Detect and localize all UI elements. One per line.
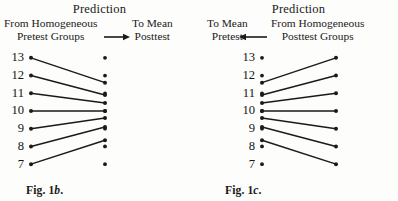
- regression-line: [262, 93, 336, 103]
- source-header-left-line1: From Homogeneous: [4, 17, 97, 30]
- data-point: [260, 81, 264, 85]
- source-header-left: From Homogeneous Pretest Groups: [4, 17, 97, 42]
- source-header-right: From Homogeneous Posttest Groups: [271, 17, 364, 42]
- panel-title-right: Prediction: [199, 2, 398, 17]
- data-point: [103, 93, 107, 97]
- data-point: [103, 74, 107, 78]
- arrow-right-icon: [104, 32, 130, 42]
- figure-caption-1c-suffix: .: [259, 184, 262, 197]
- data-point: [260, 162, 264, 166]
- panel-title-left: Prediction: [0, 2, 199, 17]
- figure-panel-1b: Prediction From Homogeneous Pretest Grou…: [0, 0, 199, 201]
- data-point: [29, 56, 33, 60]
- regression-lines-right: [199, 43, 398, 183]
- figure-caption-1c: Fig. 1c.: [225, 184, 262, 197]
- axis-tick-label-12: 12: [2, 69, 24, 82]
- plot-area-left: 13121110987: [0, 43, 199, 183]
- axis-tick-label-9: 9: [233, 122, 255, 135]
- data-point: [260, 56, 264, 60]
- target-header-left: To Mean Posttest: [132, 17, 173, 42]
- figure-caption-1c-prefix: Fig.: [225, 184, 247, 197]
- data-point: [334, 127, 338, 131]
- target-header-left-line1: To Mean: [132, 17, 173, 30]
- axis-tick-label-10: 10: [2, 104, 24, 117]
- axis-tick-label-12: 12: [233, 69, 255, 82]
- axis-tick-label-8: 8: [233, 140, 255, 153]
- axis-tick-label-11: 11: [233, 87, 255, 100]
- source-header-right-line1: From Homogeneous: [271, 17, 364, 30]
- data-point: [334, 109, 338, 113]
- figure-panel-1c: Prediction To Mean Pretest From Homogene…: [199, 0, 398, 201]
- data-point: [103, 109, 107, 113]
- data-point: [103, 101, 107, 105]
- data-point: [103, 138, 107, 142]
- axis-tick-label-7: 7: [233, 158, 255, 171]
- data-point: [334, 162, 338, 166]
- arrow-left-icon: [239, 32, 267, 42]
- data-point: [103, 162, 107, 166]
- data-point: [260, 145, 264, 149]
- data-point: [29, 109, 33, 113]
- source-header-left-line2: Pretest Groups: [4, 30, 97, 43]
- data-point: [103, 125, 107, 129]
- target-header-left-line2: Posttest: [132, 30, 173, 43]
- axis-tick-label-13: 13: [233, 51, 255, 64]
- data-point: [103, 56, 107, 60]
- axis-tick-label-9: 9: [2, 122, 24, 135]
- data-point: [29, 162, 33, 166]
- data-point: [260, 109, 264, 113]
- figure-root: Prediction From Homogeneous Pretest Grou…: [0, 0, 398, 201]
- panel-header-left: From Homogeneous Pretest Groups To Mean …: [0, 17, 199, 43]
- regression-lines-left: [0, 43, 199, 183]
- regression-line: [262, 118, 336, 129]
- axis-tick-label-10: 10: [233, 104, 255, 117]
- data-point: [103, 116, 107, 120]
- data-point: [260, 74, 264, 78]
- data-point: [29, 91, 33, 95]
- axis-tick-label-13: 13: [2, 51, 24, 64]
- data-point: [334, 144, 338, 148]
- regression-line: [31, 118, 105, 129]
- figure-caption-1b: Fig. 1b.: [26, 184, 63, 197]
- data-point: [29, 74, 33, 78]
- data-point: [260, 101, 264, 105]
- data-point: [334, 74, 338, 78]
- axis-tick-label-7: 7: [2, 158, 24, 171]
- data-point: [29, 127, 33, 131]
- axis-tick-label-11: 11: [2, 87, 24, 100]
- data-point: [103, 145, 107, 149]
- figure-caption-1b-suffix: .: [60, 184, 63, 197]
- target-header-right-line1: To Mean: [207, 17, 248, 30]
- plot-area-right: 13121110987: [199, 43, 398, 183]
- figure-caption-1b-prefix: Fig.: [26, 184, 48, 197]
- data-point: [29, 144, 33, 148]
- data-point: [260, 125, 264, 129]
- data-point: [334, 91, 338, 95]
- data-point: [103, 81, 107, 85]
- data-point: [260, 116, 264, 120]
- data-point: [260, 93, 264, 97]
- regression-line: [31, 93, 105, 103]
- data-point: [260, 138, 264, 142]
- data-point: [334, 56, 338, 60]
- axis-tick-label-8: 8: [2, 140, 24, 153]
- source-header-right-line2: Posttest Groups: [271, 30, 364, 43]
- panel-header-right: To Mean Pretest From Homogeneous Posttes…: [199, 17, 398, 43]
